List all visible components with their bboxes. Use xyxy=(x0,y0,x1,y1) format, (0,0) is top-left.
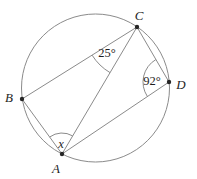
point-label-A: A xyxy=(51,161,60,176)
point-label-D: D xyxy=(175,77,186,92)
circle-outline xyxy=(22,14,170,162)
point-dot-A xyxy=(60,152,64,156)
chord-AD xyxy=(62,82,169,154)
point-dot-B xyxy=(20,97,24,101)
chord-BC xyxy=(22,27,137,99)
diagram-canvas: 25°92°xABCD xyxy=(0,0,197,179)
chord-BA xyxy=(22,99,62,154)
angle-label-D: 92° xyxy=(143,74,161,88)
point-dot-D xyxy=(167,80,171,84)
point-label-B: B xyxy=(5,90,13,105)
point-dot-C xyxy=(135,25,139,29)
angle-label-A: x xyxy=(57,137,64,151)
circle-geometry-diagram: 25°92°xABCD xyxy=(0,0,197,179)
point-label-C: C xyxy=(135,8,144,23)
angle-label-C: 25° xyxy=(98,46,116,60)
